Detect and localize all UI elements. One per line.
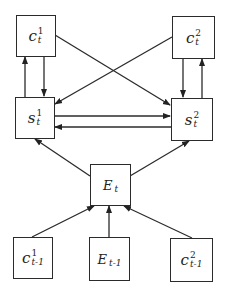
node-c1-t-base: c (28, 27, 36, 45)
edge-c2t-to-s1t (55, 37, 172, 104)
edge-Et-to-s1t (35, 139, 90, 176)
node-c2-t: c 2t (172, 16, 215, 59)
node-E-t-base: E (103, 178, 113, 193)
node-s2-t-sub: t (193, 120, 199, 129)
node-c2-tm1-base: c (181, 251, 189, 269)
node-E-t: E t (90, 164, 131, 206)
node-c1-tm1-sub: t-1 (32, 258, 44, 267)
node-c1-tm1-base: c (22, 249, 30, 267)
node-c1-t-sub: t (38, 36, 44, 45)
node-c1-t: c 1t (16, 15, 56, 57)
edge-c2tm1-to-Et (124, 206, 192, 238)
edge-Et-to-s2t (130, 141, 189, 176)
node-E-tm1-sub: t-1 (109, 258, 121, 268)
node-s2-t: s 2t (171, 98, 213, 141)
node-E-t-sub: t (114, 184, 118, 194)
node-c2-t-sub: t (195, 38, 201, 47)
node-s2-t-base: s (185, 111, 193, 129)
node-c2-tm1-sub: t-1 (190, 260, 202, 269)
node-c2-tm1: c 2t-1 (170, 238, 213, 282)
edge-c1tm1-to-Et (32, 206, 94, 237)
node-s1-t-sub: t (36, 118, 42, 127)
node-c2-t-base: c (186, 29, 194, 47)
node-s1-t: s 1t (15, 97, 55, 139)
node-E-tm1: E t-1 (89, 237, 130, 281)
node-E-tm1-base: E (98, 252, 108, 267)
node-s1-t-base: s (28, 109, 36, 127)
node-c1-tm1: c 1t-1 (13, 237, 53, 279)
